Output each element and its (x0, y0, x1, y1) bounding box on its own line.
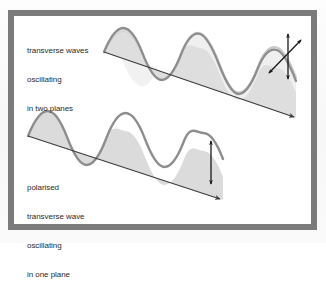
caption-top-line-2: oscillating (27, 75, 88, 85)
top-wave-group (104, 28, 296, 118)
polarised-wave-caption: polarised transverse wave oscillating in… (27, 164, 85, 283)
caption-bottom-line-4: in one plane (27, 270, 85, 280)
caption-top-line-1: transverse waves (27, 46, 88, 56)
unpolarised-wave-caption: transverse waves oscillating in two plan… (27, 27, 88, 133)
caption-bottom-line-3: oscillating (27, 241, 85, 251)
caption-bottom-line-2: transverse wave (27, 212, 85, 222)
caption-bottom-line-1: polarised (27, 183, 85, 193)
caption-top-line-3: in two planes (27, 104, 88, 114)
